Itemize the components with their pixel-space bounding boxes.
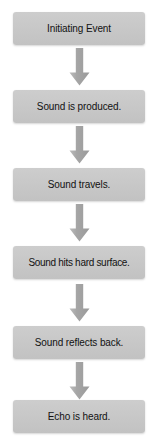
arrow-down-icon [69,362,90,400]
flowchart-step-2: Sound is produced. [13,90,145,123]
flowchart-step-3: Sound travels. [13,168,145,201]
flowchart-diagram: Initiating Event Sound is produced. [0,0,157,441]
flowchart-step-5: Sound reflects back. [13,326,145,359]
arrow-down-icon [69,284,90,322]
flowchart-step-1: Initiating Event [13,12,145,45]
flowchart-step-label: Initiating Event [47,23,111,35]
flowchart-step-label: Echo is heard. [48,411,111,423]
arrow-down-icon [69,48,90,86]
flowchart-step-6: Echo is heard. [13,400,145,433]
flowchart-step-label: Sound reflects back. [35,337,124,349]
flowchart-step-label: Sound is produced. [37,101,121,113]
arrow-down-icon [69,204,90,242]
arrow-down-icon [69,126,90,164]
flowchart-step-4: Sound hits hard surface. [13,246,145,279]
flowchart-step-label: Sound travels. [48,179,111,191]
flowchart-step-label: Sound hits hard surface. [28,257,129,269]
